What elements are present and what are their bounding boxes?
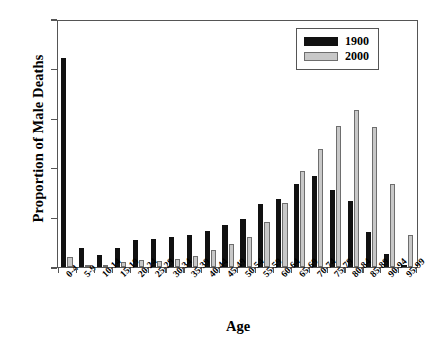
legend-label-1900: 1900 xyxy=(345,34,369,49)
bar-group xyxy=(201,21,219,267)
bar-group xyxy=(76,21,94,267)
y-tick-mark xyxy=(51,218,57,219)
bar-group xyxy=(255,21,273,267)
y-tick-mark xyxy=(51,119,57,120)
x-tick-mark xyxy=(416,268,417,273)
bar-2000-55-59 xyxy=(264,222,269,267)
legend-swatch-2000 xyxy=(304,52,338,61)
x-tick-mark xyxy=(112,268,113,273)
bar-group xyxy=(130,21,148,267)
legend-item-1900: 1900 xyxy=(304,34,369,49)
bar-1900-70-74 xyxy=(312,176,317,267)
bar-group xyxy=(112,21,130,267)
x-tick-mark xyxy=(327,268,328,273)
bar-2000-80-84 xyxy=(354,110,359,267)
y-axis-title: Proportion of Male Deaths xyxy=(30,9,47,269)
legend-item-2000: 2000 xyxy=(304,49,369,64)
bar-1900-65-69 xyxy=(294,184,299,267)
bar-group xyxy=(58,21,76,267)
y-tick-mark xyxy=(51,168,57,169)
bar-2000-70-74 xyxy=(318,149,323,267)
bar-group xyxy=(219,21,237,267)
bar-group xyxy=(165,21,183,267)
x-tick-mark xyxy=(94,268,95,273)
y-tick-mark xyxy=(51,19,57,20)
x-tick-mark xyxy=(291,268,292,273)
bar-2000-75-79 xyxy=(336,126,341,267)
bar-1900-10-14 xyxy=(97,255,102,267)
bar-group xyxy=(183,21,201,267)
chart-legend: 1900 2000 xyxy=(296,28,379,70)
x-tick-mark xyxy=(76,268,77,273)
x-tick-mark xyxy=(219,268,220,273)
x-axis-title: Age xyxy=(57,318,419,335)
x-tick-mark xyxy=(309,268,310,273)
bar-2000-65-69 xyxy=(300,171,305,267)
x-tick-mark xyxy=(58,268,59,273)
bar-group xyxy=(380,21,398,267)
x-tick-mark xyxy=(398,268,399,273)
bar-2000-85-89 xyxy=(372,127,377,267)
bar-group xyxy=(398,21,416,267)
x-tick-mark xyxy=(183,268,184,273)
x-tick-mark xyxy=(255,268,256,273)
bar-group xyxy=(94,21,112,267)
x-tick-mark xyxy=(201,268,202,273)
legend-label-2000: 2000 xyxy=(345,49,369,64)
bar-2000-60-64 xyxy=(282,203,287,267)
x-tick-mark xyxy=(130,268,131,273)
legend-swatch-1900 xyxy=(304,37,338,46)
x-axis-ticks: 0-45-910-1415-1920-2425-2930-3435-3940-4… xyxy=(58,268,416,314)
x-tick-mark xyxy=(344,268,345,273)
chart-figure: Proportion of Male Deaths 0.000.050.100.… xyxy=(0,0,430,344)
bar-group xyxy=(237,21,255,267)
bar-2000-90-94 xyxy=(390,184,395,267)
x-tick-mark xyxy=(362,268,363,273)
x-tick-mark xyxy=(237,268,238,273)
y-tick-mark xyxy=(51,267,57,268)
x-tick-mark xyxy=(380,268,381,273)
x-tick-mark xyxy=(273,268,274,273)
bar-group xyxy=(148,21,166,267)
bar-1900-5-9 xyxy=(79,248,84,267)
y-tick-mark xyxy=(51,69,57,70)
x-tick-mark xyxy=(148,268,149,273)
bar-group xyxy=(273,21,291,267)
x-tick-mark xyxy=(165,268,166,273)
bar-1900-0-4 xyxy=(61,58,66,267)
